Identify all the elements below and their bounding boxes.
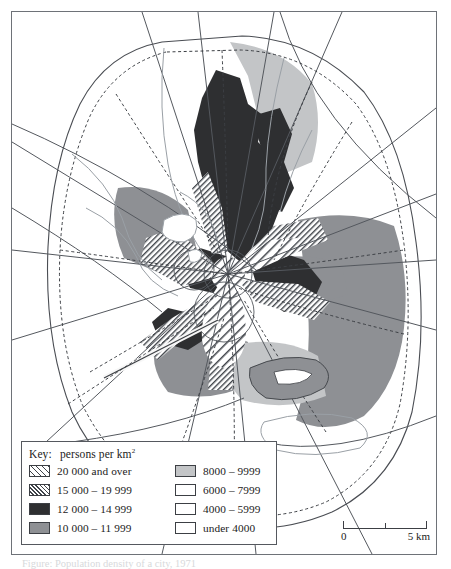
swatch-6000-7999 — [175, 484, 196, 496]
scale-bar-labels: 0 5 km — [343, 529, 427, 543]
legend-item-label: 20 000 and over — [57, 465, 169, 477]
legend-key-word: Key: — [29, 448, 60, 460]
scale-bar-graphic — [343, 520, 427, 529]
map-frame: Key:persons per km2 20 000 and over 15 0… — [11, 11, 437, 555]
legend-item-label: 10 000 – 11 999 — [57, 522, 169, 534]
legend-title-text: persons per km — [60, 448, 132, 460]
legend-box: Key:persons per km2 20 000 and over 15 0… — [21, 441, 277, 545]
legend-item[interactable]: under 4000 — [175, 520, 287, 537]
legend-item-label: 15 000 – 19 999 — [57, 484, 169, 496]
legend-item-label: 6000 – 7999 — [203, 484, 287, 496]
legend-item[interactable]: 6000 – 7999 — [175, 482, 287, 499]
legend-item[interactable]: 20 000 and over — [29, 463, 169, 480]
legend-item[interactable]: 15 000 – 19 999 — [29, 482, 169, 499]
scale-label-start: 0 — [341, 530, 347, 542]
scale-bar: 0 5 km — [343, 520, 427, 543]
legend-item[interactable]: 8000 – 9999 — [175, 463, 287, 480]
swatch-12000-14999 — [29, 503, 50, 515]
scale-label-end: 5 km — [408, 530, 430, 542]
scale-tick-end — [426, 521, 427, 529]
legend-title: Key:persons per km2 — [29, 447, 270, 460]
legend-item[interactable]: 10 000 – 11 999 — [29, 520, 169, 537]
legend-title-exponent: 2 — [132, 447, 136, 455]
reservoir-west — [162, 214, 197, 242]
legend-item-label: 12 000 – 14 999 — [57, 503, 169, 515]
legend-item[interactable]: 12 000 – 14 999 — [29, 501, 169, 518]
legend-item-label: under 4000 — [203, 522, 287, 534]
legend-column-right: 8000 – 9999 6000 – 7999 4000 – 5999 unde… — [175, 463, 287, 537]
legend-column-left: 20 000 and over 15 000 – 19 999 12 000 –… — [29, 463, 169, 537]
swatch-8000-9999 — [175, 465, 196, 477]
swatch-under-4000 — [175, 522, 196, 534]
figure-caption: Figure: Population density of a city, 19… — [22, 558, 196, 569]
legend-item-label: 4000 – 5999 — [203, 503, 287, 515]
swatch-20000-and-over — [29, 465, 50, 477]
legend-item-label: 8000 – 9999 — [203, 465, 287, 477]
scale-tick-start — [343, 521, 344, 529]
legend-item[interactable]: 4000 – 5999 — [175, 501, 287, 518]
swatch-15000-19999 — [29, 484, 50, 496]
swatch-4000-5999 — [175, 503, 196, 515]
swatch-10000-11999 — [29, 522, 50, 534]
